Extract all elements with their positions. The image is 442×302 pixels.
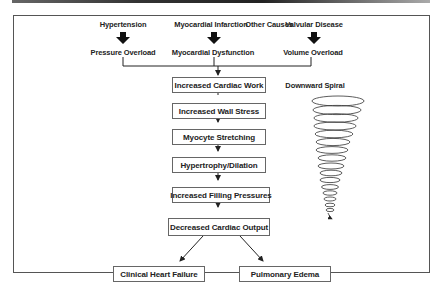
step-increased-wall-stress: Increased Wall Stress [172, 103, 266, 119]
connector-lines [0, 0, 442, 302]
downward-spiral-icon [312, 96, 364, 219]
step-decreased-cardiac-output: Decreased Cardiac Output [168, 218, 270, 236]
outcome-pulmonary-edema: Pulmonary Edema [239, 266, 331, 282]
myocardial-dysfunction-label: Myocardial Dysfunction [172, 48, 254, 57]
cause-hypertension: Hypertension [100, 20, 147, 29]
cause-valvular-disease: Valvular Disease [285, 20, 343, 29]
volume-overload-label: Volume Overload [283, 48, 343, 57]
cause-myocardial-infarction: Myocardial Infarction [174, 20, 247, 29]
step-increased-filling-pressures: Increased Filling Pressures [172, 187, 270, 203]
pressure-overload-label: Pressure Overload [90, 48, 155, 57]
step-increased-cardiac-work: Increased Cardiac Work [172, 77, 266, 93]
step-hypertrophy-dilation: Hypertrophy/Dilation [172, 157, 266, 173]
cause-arrows [116, 32, 321, 44]
downward-spiral-label: Downward Spiral [285, 81, 344, 90]
outcome-clinical-heart-failure: Clinical Heart Failure [113, 266, 205, 282]
step-myocyte-stretching: Myocyte Stretching [172, 129, 266, 145]
